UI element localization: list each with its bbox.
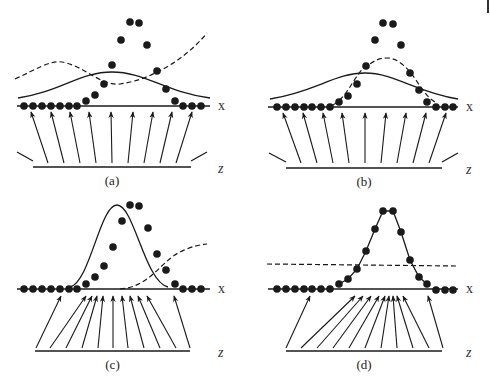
data-point bbox=[117, 36, 125, 44]
data-point bbox=[153, 67, 161, 75]
mapping-arrow bbox=[122, 296, 128, 348]
data-point bbox=[441, 286, 449, 294]
data-point bbox=[441, 103, 449, 111]
density-curve bbox=[270, 73, 458, 99]
data-point bbox=[423, 98, 431, 106]
panel-c: xz(c) bbox=[17, 201, 225, 372]
data-point bbox=[423, 280, 431, 288]
mapping-arrow bbox=[323, 113, 333, 163]
data-point bbox=[353, 265, 361, 273]
data-point bbox=[179, 102, 187, 110]
z-axis-label: z bbox=[465, 345, 472, 360]
mapping-arrow bbox=[403, 296, 429, 348]
data-point bbox=[100, 80, 108, 88]
data-point bbox=[406, 69, 414, 77]
data-point bbox=[144, 224, 152, 232]
z-axis-label: z bbox=[217, 161, 224, 176]
density-curve bbox=[70, 205, 168, 287]
data-point bbox=[197, 285, 205, 293]
data-point bbox=[353, 80, 361, 88]
data-point bbox=[273, 103, 281, 111]
data-point bbox=[389, 20, 397, 28]
x-axis-label: x bbox=[218, 281, 225, 296]
mapping-arrow bbox=[429, 113, 446, 163]
mapping-arrow bbox=[31, 112, 48, 163]
mapping-arrow bbox=[130, 296, 144, 348]
mapping-arrow bbox=[66, 296, 92, 348]
mapping-arrow bbox=[98, 296, 103, 348]
data-point bbox=[20, 285, 28, 293]
data-point bbox=[432, 103, 440, 111]
panel-caption: (a) bbox=[105, 173, 119, 188]
data-point bbox=[379, 19, 387, 27]
data-point bbox=[344, 275, 352, 283]
mapping-arrow bbox=[333, 296, 371, 348]
data-point bbox=[162, 85, 170, 93]
data-point bbox=[118, 217, 126, 225]
data-point bbox=[29, 102, 37, 110]
data-point bbox=[300, 285, 308, 293]
density-curve bbox=[339, 211, 427, 284]
mapping-arrow bbox=[174, 296, 190, 348]
latent-range-tick bbox=[191, 152, 207, 161]
mapping-arrow bbox=[301, 296, 355, 348]
data-point bbox=[371, 225, 379, 233]
latent-range-tick bbox=[269, 153, 286, 162]
data-point bbox=[38, 285, 46, 293]
data-point bbox=[344, 92, 352, 100]
data-point bbox=[65, 102, 73, 110]
mapping-arrow bbox=[176, 112, 192, 163]
data-point bbox=[197, 102, 205, 110]
data-point bbox=[29, 285, 37, 293]
data-point bbox=[109, 243, 117, 251]
data-point bbox=[38, 102, 46, 110]
figure-canvas: xz(a)xz(b)xz(c)xz(d) bbox=[0, 0, 490, 385]
mapping-arrow bbox=[51, 112, 64, 163]
z-axis-label: z bbox=[217, 345, 224, 360]
data-point bbox=[171, 280, 179, 288]
data-point bbox=[82, 280, 90, 288]
data-point bbox=[317, 285, 325, 293]
mapping-arrow bbox=[50, 296, 86, 348]
data-point bbox=[126, 201, 134, 209]
panel-caption: (d) bbox=[356, 357, 371, 372]
mapping-arrow bbox=[283, 113, 301, 163]
data-point bbox=[65, 285, 73, 293]
mapping-arrow bbox=[397, 296, 413, 348]
data-point bbox=[91, 91, 99, 99]
data-point bbox=[326, 103, 334, 111]
data-point bbox=[143, 41, 151, 49]
data-point bbox=[406, 256, 414, 264]
data-point bbox=[335, 280, 343, 288]
mapping-arrow bbox=[381, 113, 386, 163]
mapping-arrow bbox=[147, 296, 176, 348]
data-point bbox=[273, 285, 281, 293]
density-curve bbox=[18, 72, 210, 98]
data-point bbox=[308, 103, 316, 111]
data-point bbox=[153, 250, 161, 258]
data-point bbox=[73, 285, 81, 293]
data-point bbox=[82, 97, 90, 105]
data-point bbox=[108, 61, 116, 69]
data-point bbox=[397, 41, 405, 49]
mapping-arrow bbox=[36, 296, 61, 348]
x-axis-label: x bbox=[466, 281, 473, 296]
x-axis-label: x bbox=[218, 98, 225, 113]
data-point bbox=[171, 97, 179, 105]
dashed-curve bbox=[15, 33, 207, 84]
mapping-arrow bbox=[428, 296, 443, 348]
data-point bbox=[432, 286, 440, 294]
mapping-arrow bbox=[413, 113, 426, 163]
dashed-curve bbox=[120, 244, 207, 289]
data-point bbox=[308, 285, 316, 293]
mapping-arrow bbox=[82, 296, 97, 348]
z-axis-label: z bbox=[465, 162, 472, 177]
data-point bbox=[291, 285, 299, 293]
data-point bbox=[135, 202, 143, 210]
data-point bbox=[91, 273, 99, 281]
mapping-arrow bbox=[128, 112, 133, 163]
data-point bbox=[56, 285, 64, 293]
data-point bbox=[135, 19, 143, 27]
mapping-arrow bbox=[138, 296, 160, 348]
mapping-arrow bbox=[397, 113, 406, 163]
